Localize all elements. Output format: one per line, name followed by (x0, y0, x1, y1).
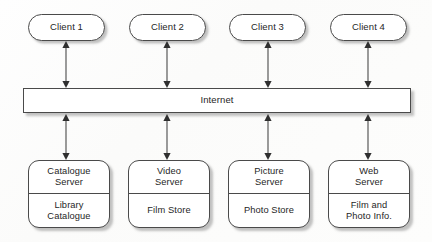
client-node-2-label: Client 2 (151, 22, 184, 33)
server-node-web[interactable]: Web Server Film and Photo Info. (328, 160, 410, 228)
connector-client-3-internet (261, 41, 275, 88)
server-node-picture-title: Picture Server (254, 166, 284, 187)
client-node-4[interactable]: Client 4 (330, 14, 407, 41)
client-node-3-label: Client 3 (251, 22, 284, 33)
connector-client-4-internet (361, 41, 375, 88)
internet-backbone[interactable]: Internet (23, 88, 411, 113)
server-node-picture-top: Picture Server (229, 161, 309, 194)
server-node-picture[interactable]: Picture Server Photo Store (228, 160, 310, 228)
architecture-diagram: Client 1 Client 2 Client 3 Client 4 (0, 0, 432, 242)
server-node-video-top: Video Server (129, 161, 209, 194)
server-node-catalogue[interactable]: Catalogue Server Library Catalogue (28, 160, 110, 228)
client-node-4-label: Client 4 (352, 22, 385, 33)
connector-internet-video-server (160, 114, 174, 160)
server-node-web-bottom: Film and Photo Info. (329, 194, 409, 227)
server-node-video-title: Video Server (155, 166, 183, 187)
client-node-1[interactable]: Client 1 (28, 14, 105, 41)
connector-internet-web-server (361, 114, 375, 160)
client-node-2[interactable]: Client 2 (129, 14, 206, 41)
server-node-catalogue-top: Catalogue Server (29, 161, 109, 194)
server-node-video-bottom: Film Store (129, 194, 209, 227)
connector-client-1-internet (59, 41, 73, 88)
server-node-catalogue-title: Catalogue Server (47, 166, 90, 187)
server-node-picture-bottom: Photo Store (229, 194, 309, 227)
internet-backbone-label: Internet (200, 95, 233, 106)
server-node-web-title: Web Server (355, 166, 383, 187)
server-node-video[interactable]: Video Server Film Store (128, 160, 210, 228)
client-node-1-label: Client 1 (50, 22, 83, 33)
connector-internet-catalogue-server (59, 114, 73, 160)
client-node-3[interactable]: Client 3 (229, 14, 306, 41)
server-node-catalogue-store: Library Catalogue (47, 200, 90, 221)
connector-client-2-internet (160, 41, 174, 88)
server-node-catalogue-bottom: Library Catalogue (29, 194, 109, 227)
server-node-picture-store: Photo Store (244, 205, 294, 216)
server-node-video-store: Film Store (147, 205, 190, 216)
server-node-web-store: Film and Photo Info. (346, 200, 392, 221)
connector-internet-picture-server (261, 114, 275, 160)
server-node-web-top: Web Server (329, 161, 409, 194)
